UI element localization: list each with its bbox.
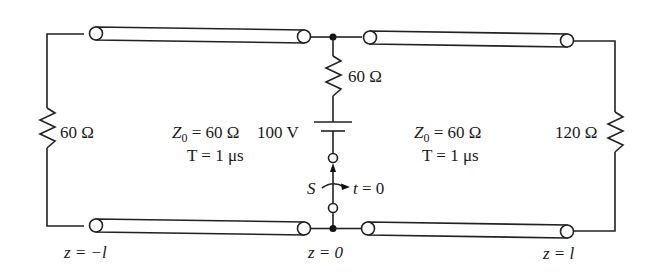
right-load-label: 120 Ω: [555, 123, 597, 142]
right-bottom-terminal-left: [362, 222, 375, 235]
left-top-terminal-right: [298, 30, 311, 43]
source-branch: [314, 34, 352, 233]
left-bottom-terminal-right: [298, 222, 311, 235]
left-line-top-conductor: [90, 27, 311, 43]
series-resistor-zigzag: [326, 56, 341, 96]
left-top-terminal-left: [90, 27, 103, 40]
switch-bottom-contact: [329, 204, 338, 213]
right-bottom-terminal-right: [561, 225, 574, 238]
right-top-terminal-left: [364, 31, 377, 44]
left-wire-bottom: [47, 148, 84, 226]
left-line-z0-label: Z0 = 60 Ω: [172, 123, 239, 145]
right-top-terminal-right: [561, 34, 574, 47]
switch-arrow-right-icon: [341, 184, 350, 191]
right-line-z0-label: Z0 = 60 Ω: [414, 123, 481, 145]
left-load-label: 60 Ω: [60, 123, 94, 142]
right-wire-top: [574, 41, 615, 112]
circuit-diagram: 60 Ω Z0 = 60 Ω T = 1 μs 60 Ω 100 V S t =…: [0, 0, 653, 272]
switch-arrow-up-icon: [330, 163, 336, 172]
position-label-left: z = −l: [63, 243, 107, 262]
switch-top-contact: [329, 154, 338, 163]
switch-time-label: t = 0: [353, 179, 384, 198]
left-resistor-zigzag: [40, 108, 55, 148]
left-line-bottom-conductor: [90, 219, 311, 235]
right-line-delay-label: T = 1 μs: [422, 146, 479, 165]
switch-label: S: [307, 179, 316, 198]
position-label-center: z = 0: [307, 243, 344, 262]
right-wire-bottom: [574, 152, 615, 231]
left-wire-top: [47, 34, 84, 108]
left-line-delay-label: T = 1 μs: [187, 146, 244, 165]
position-label-right: z = l: [542, 244, 575, 263]
right-line-top-conductor: [364, 31, 574, 47]
left-bottom-terminal-left: [90, 219, 103, 232]
right-line-bottom-conductor: [362, 222, 574, 238]
battery-label: 100 V: [257, 123, 299, 142]
series-resistor-label: 60 Ω: [348, 67, 382, 86]
right-resistor-zigzag: [608, 112, 623, 152]
